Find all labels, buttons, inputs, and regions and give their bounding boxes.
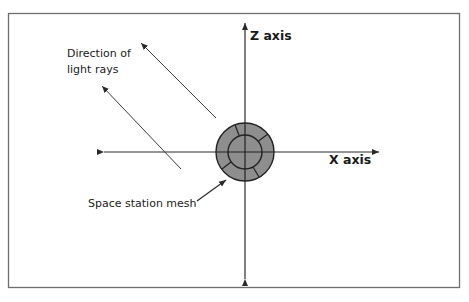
mesh-label: Space station mesh <box>88 197 197 210</box>
light-rays-label: Direction of <box>67 47 132 60</box>
z-axis-label: Z axis <box>250 28 292 43</box>
diagram-canvas: Direction of light rays Z axis X axis Sp… <box>0 0 469 302</box>
light-rays-label-line2: light rays <box>67 63 119 76</box>
space-station-mesh <box>216 123 274 181</box>
x-axis-label: X axis <box>329 152 371 167</box>
